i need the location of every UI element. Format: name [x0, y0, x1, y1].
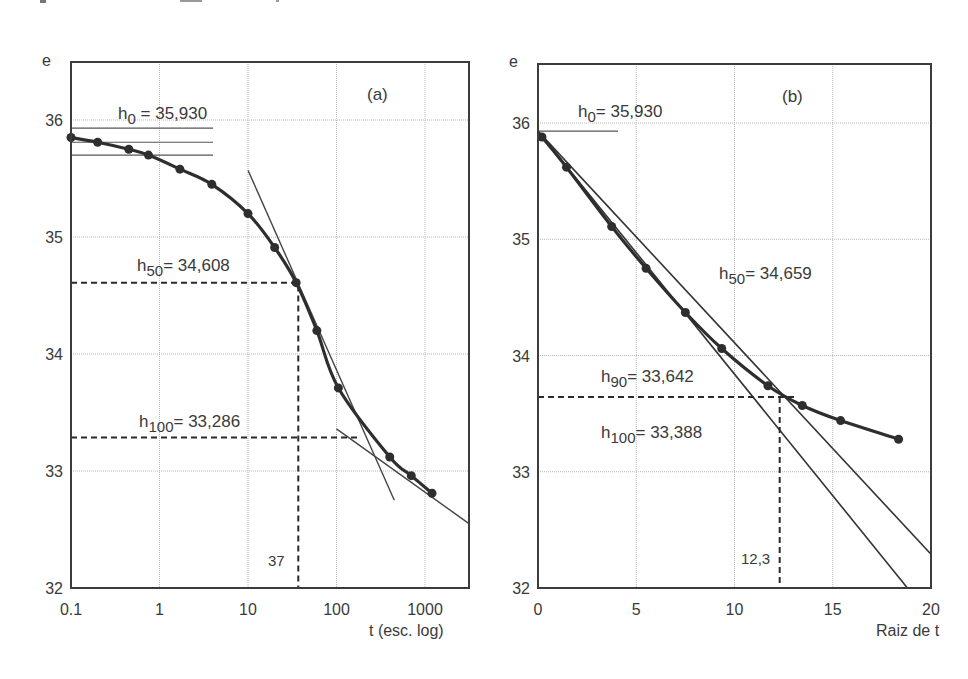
chart-a-panel-label: (a) [367, 85, 388, 104]
chart-a-x-tick-labels: 0.11101001000 [60, 601, 443, 618]
data-point [894, 435, 903, 444]
x-tick-label: 10 [239, 601, 257, 618]
chart-b-panel-label: (b) [782, 87, 803, 106]
chart-a-data-points [67, 133, 437, 498]
chart-a-construction-lines [71, 128, 469, 588]
chart-a-curve [71, 138, 432, 494]
x-tick-label: 1000 [407, 601, 443, 618]
data-point [717, 344, 726, 353]
chart-a-grid [71, 62, 469, 588]
data-point [681, 308, 690, 317]
y-tick-label: 32 [512, 580, 530, 597]
data-point [270, 243, 279, 252]
inflection-tangent-line [248, 170, 394, 500]
y-tick-label: 32 [45, 580, 63, 597]
chart-a-y-axis-label: e [42, 52, 51, 69]
chart-a-h0-annotation: h0 = 35,930 [118, 104, 207, 127]
data-point [175, 165, 184, 174]
data-point [144, 151, 153, 160]
y-tick-label: 36 [45, 112, 63, 129]
data-point [407, 471, 416, 480]
data-point [642, 264, 651, 273]
data-point [334, 383, 343, 392]
y-tick-label: 33 [512, 464, 530, 481]
data-point [428, 489, 437, 498]
x-tick-label: 10 [726, 601, 744, 618]
chart-b-y-tick-labels: 3233343536 [512, 115, 530, 597]
data-point [292, 278, 301, 287]
x-tick-label: 1 [155, 601, 164, 618]
initial-tangent-line [538, 131, 907, 588]
data-point [244, 209, 253, 218]
chart-b-x-tick-labels: 05101520 [534, 601, 940, 618]
y-tick-label: 35 [512, 231, 530, 248]
data-point [93, 138, 102, 147]
h50-dashed-guide [71, 283, 298, 588]
data-point [607, 222, 616, 231]
data-point [207, 180, 216, 189]
y-tick-label: 36 [512, 115, 530, 132]
x-tick-label: 15 [824, 601, 842, 618]
chart-a-t50-value: 37 [268, 552, 285, 569]
chart-b-curve [542, 137, 899, 439]
chart-a-h50-annotation: h50= 34,608 [137, 256, 230, 279]
x-tick-label: 0.1 [60, 601, 82, 618]
chart-b-t90-value: 12,3 [741, 550, 770, 567]
y-tick-label: 35 [45, 229, 63, 246]
x-tick-label: 20 [922, 601, 940, 618]
chart-a-x-axis-label: t (esc. log) [369, 622, 444, 639]
chart-b-h90-annotation: h90= 33,642 [601, 367, 694, 390]
data-point [385, 452, 394, 461]
chart-b-sqrt-time: 3233343536 05101520 e (b) Raiz de t h0= … [509, 53, 940, 639]
chart-a-h100-annotation: h100= 33,286 [139, 412, 240, 435]
chart-b-y-axis-label: e [509, 53, 518, 70]
data-point [798, 401, 807, 410]
chart-b-grid [538, 64, 931, 588]
y-tick-label: 34 [45, 346, 63, 363]
data-point [836, 416, 845, 425]
chart-b-h50-annotation: h50= 34,659 [719, 264, 812, 287]
cropped-caption-strip [40, 0, 279, 3]
data-point [312, 326, 321, 335]
consolidation-figure: 3233343536 0.11101001000 e (a) t (esc. l… [0, 0, 968, 679]
x-tick-label: 100 [323, 601, 350, 618]
chart-b-h0-annotation: h0= 35,930 [578, 102, 662, 125]
data-point [763, 381, 772, 390]
data-point [562, 163, 571, 172]
data-point [124, 145, 133, 154]
y-tick-label: 33 [45, 463, 63, 480]
y-tick-label: 34 [512, 348, 530, 365]
chart-a-log-time: 3233343536 0.11101001000 e (a) t (esc. l… [42, 52, 469, 639]
tail-tangent-line [337, 429, 470, 524]
chart-b-x-axis-label: Raiz de t [876, 622, 940, 639]
x-tick-label: 0 [534, 601, 543, 618]
chart-a-y-tick-labels: 3233343536 [45, 112, 63, 597]
chart-b-h100-annotation: h100= 33,388 [601, 423, 702, 446]
chart-a-frame [71, 62, 469, 588]
x-tick-label: 5 [632, 601, 641, 618]
